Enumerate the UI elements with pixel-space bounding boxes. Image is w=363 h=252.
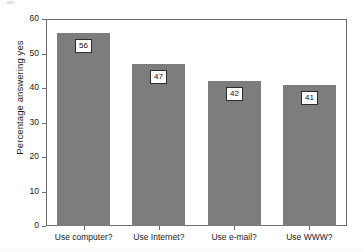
y-axis-tick-label: 30 [30, 117, 39, 127]
y-axis-tick-mark [42, 54, 46, 55]
y-axis-tick-label: 50 [30, 48, 39, 58]
bar [208, 81, 261, 226]
bar-chart-figure: Percentage answering yes 0102030405060 5… [0, 0, 363, 252]
y-axis-tick: 50 [0, 54, 46, 55]
y-axis-tick: 20 [0, 157, 46, 158]
y-axis-tick-mark [42, 123, 46, 124]
y-axis-title: Percentage answering yes [14, 3, 25, 193]
y-axis-tick: 40 [0, 88, 46, 89]
x-axis-category-label: Use computer? [46, 232, 121, 242]
y-axis-tick-mark [42, 192, 46, 193]
y-axis-tick-mark [42, 88, 46, 89]
y-axis-tick-label: 0 [34, 220, 39, 230]
y-axis-tick-label: 10 [30, 186, 39, 196]
bar [283, 85, 336, 226]
bar [132, 64, 185, 226]
y-axis-tick-mark [42, 19, 46, 20]
bar-value-label: 47 [150, 70, 167, 84]
y-axis-tick-label: 20 [30, 151, 39, 161]
y-axis-tick: 0 [0, 226, 46, 227]
y-axis-tick: 10 [0, 192, 46, 193]
x-axis-tick-mark [159, 226, 160, 230]
x-axis-tick-mark [234, 226, 235, 230]
y-axis-tick-label: 40 [30, 82, 39, 92]
y-axis-tick: 60 [0, 19, 46, 20]
x-axis-category-label: Use WWW? [272, 232, 347, 242]
y-axis-tick: 30 [0, 123, 46, 124]
bar-value-label: 42 [226, 87, 243, 101]
scan-band [0, 248, 363, 252]
y-axis-tick-mark [42, 226, 46, 227]
bar-value-label: 41 [301, 91, 318, 105]
x-axis-tick-mark [84, 226, 85, 230]
x-axis-category-label: Use Internet? [121, 232, 196, 242]
y-axis-tick-label: 60 [30, 13, 39, 23]
bar-value-label: 56 [75, 39, 92, 53]
bar [57, 33, 110, 226]
y-axis-tick-mark [42, 157, 46, 158]
x-axis-tick-mark [309, 226, 310, 230]
x-axis-category-label: Use e-mail? [197, 232, 272, 242]
